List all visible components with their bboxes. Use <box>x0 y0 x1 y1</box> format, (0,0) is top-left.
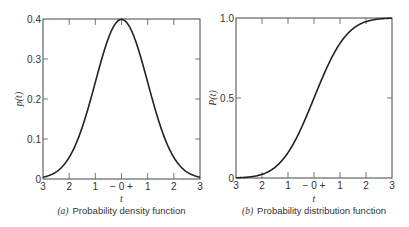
y-tick-label: 0.1 <box>27 134 41 145</box>
pdf-plot: 321− 0 +12300.10.20.30.4 p(t) t (a)Proba… <box>13 14 203 218</box>
x-tick-label: 3 <box>197 181 203 192</box>
y-tick-label: 0.4 <box>27 14 41 25</box>
x-tick-label: 2 <box>171 181 177 192</box>
x-tick-label: − 0 + <box>110 181 133 192</box>
pdf-y-axis-label: p(t) <box>13 91 25 107</box>
x-tick-label: 2 <box>363 180 369 191</box>
x-tick-label: 1 <box>337 180 343 191</box>
y-tick-label: 0.2 <box>27 94 41 105</box>
cdf-caption: (b)Probability distribution function <box>242 205 386 217</box>
y-tick-label: 0.3 <box>27 54 41 65</box>
cdf-plot: 321− 0 +12300.51.0 P(t) t (b)Probability… <box>207 13 395 218</box>
y-tick-label: 1.0 <box>220 13 234 24</box>
y-tick-label: 0 <box>35 174 41 185</box>
pdf-ticks: 321− 0 +12300.10.20.30.4 <box>27 14 203 193</box>
cdf-curve <box>236 18 392 178</box>
x-tick-label: 1 <box>285 180 291 191</box>
x-tick-label: − 0 + <box>303 180 326 191</box>
x-tick-label: 3 <box>40 181 46 192</box>
x-tick-label: 1 <box>145 181 151 192</box>
pdf-curve <box>43 19 200 177</box>
x-tick-label: 2 <box>259 180 265 191</box>
cdf-ticks: 321− 0 +12300.51.0 <box>220 13 395 192</box>
cdf-x-axis-label: t <box>313 193 316 204</box>
pdf-caption: (a)Probability density function <box>57 205 185 217</box>
cdf-y-axis-label: P(t) <box>207 90 219 107</box>
x-tick-label: 2 <box>66 181 72 192</box>
x-tick-label: 1 <box>93 181 99 192</box>
y-tick-label: 0.5 <box>220 93 234 104</box>
chart-canvas: 321− 0 +12300.10.20.30.4 p(t) t (a)Proba… <box>0 0 409 227</box>
x-tick-label: 3 <box>389 180 395 191</box>
pdf-x-axis-label: t <box>120 193 123 204</box>
y-tick-label: 0 <box>228 173 234 184</box>
pdf-plot-frame <box>43 19 200 179</box>
x-tick-label: 3 <box>233 180 239 191</box>
